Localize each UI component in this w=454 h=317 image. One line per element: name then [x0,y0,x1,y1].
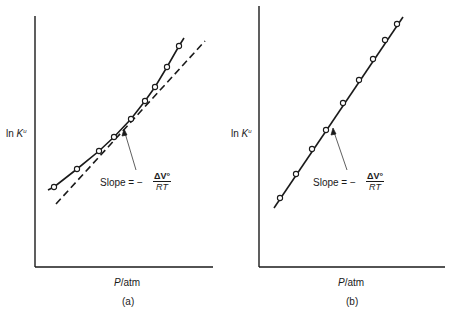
xlabel-p: P [338,277,345,288]
fraction-numerator: ΔV° [153,171,171,182]
fraction-denominator: RT [153,182,171,192]
ylabel-sup: u [23,128,26,134]
panel-a-caption: (a) [122,296,134,307]
panel-a-slope-arrow [122,129,136,170]
fraction-numerator: ΔV° [366,171,384,182]
panel-b-slope-arrow [331,128,347,170]
panel-b-x-axis-label: P/atm [338,277,364,288]
ylabel-text: ln [6,128,17,139]
panel-b-caption: (b) [346,296,358,307]
panel-a-x-axis-label: P/atm [114,277,140,288]
panel-a-slope-label: Slope = − [100,177,143,188]
xlabel-rest: /atm [345,277,364,288]
xlabel-rest: /atm [121,277,140,288]
panel-b-axes [259,6,445,267]
fraction-denominator: RT [366,182,384,192]
panel-b-y-axis-label: ln Ku [231,128,252,139]
panel-a-data-points [51,43,181,189]
panel-a-data-curve [48,38,184,190]
xlabel-p: P [114,277,121,288]
figure-canvas [0,0,454,317]
panel-a-y-axis-label: ln Ku [6,128,27,139]
panel-a-axes [35,16,213,267]
ylabel-text: ln [231,128,242,139]
panel-b-slope-fraction: ΔV° RT [366,171,384,192]
ylabel-sup: u [248,128,251,134]
panel-b-slope-label: Slope = − [313,177,356,188]
panel-a-slope-fraction: ΔV° RT [153,171,171,192]
